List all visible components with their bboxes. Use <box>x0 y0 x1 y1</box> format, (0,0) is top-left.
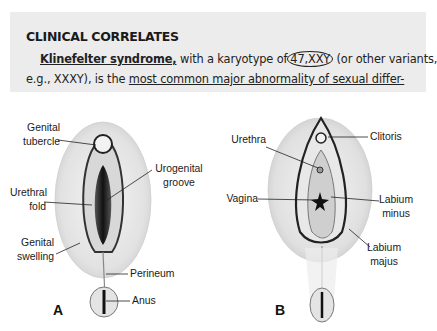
box-title: CLINICAL CORRELATES <box>26 29 179 44</box>
label-vagina: Vagina <box>222 192 258 206</box>
term-klinefelter: Klinefelter syndrome, <box>40 52 177 66</box>
label-urethral-fold: Urethral fold <box>10 186 46 214</box>
panel-letter-a: A <box>53 302 63 318</box>
underlined-phrase: most common major abnormality of sexual … <box>129 72 404 86</box>
label-perineum: Perineum <box>130 267 174 281</box>
label-urethra: Urethra <box>228 133 266 147</box>
label-labium-minus: Labium minus <box>378 193 414 221</box>
karyotype-circled: 47,XXY <box>287 51 333 67</box>
label-genital-tubercle: Genital tubercle <box>18 121 60 149</box>
box-text-line-1: Klinefelter syndrome, with a karyotype o… <box>40 52 437 66</box>
label-clitoris: Clitoris <box>370 130 402 144</box>
panel-letter-b: B <box>275 302 285 318</box>
label-labium-majus: Labium majus <box>366 241 402 269</box>
label-genital-swelling: Genital swelling <box>12 236 54 264</box>
box-text-line-2: e.g., XXXY), is the most common major ab… <box>26 72 404 86</box>
label-urogenital-groove: Urogenital groove <box>152 162 206 190</box>
label-anus: Anus <box>132 294 156 308</box>
